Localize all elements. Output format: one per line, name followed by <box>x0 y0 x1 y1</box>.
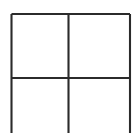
pane-bottom-left <box>13 80 67 134</box>
pane-bottom-right <box>70 80 129 134</box>
grid-wireframe-figure <box>0 0 136 133</box>
drawing-canvas <box>0 0 136 133</box>
pane-top-left <box>13 16 67 78</box>
pane-top-right <box>70 16 129 78</box>
